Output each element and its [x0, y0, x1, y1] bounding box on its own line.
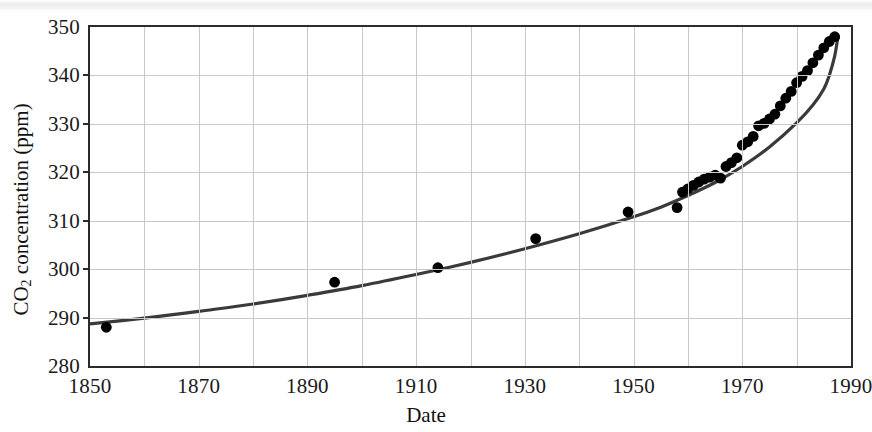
- gridline-x-1920: [471, 27, 472, 366]
- y-tick-label-290: 290: [48, 305, 80, 330]
- data-point: [829, 31, 840, 42]
- x-tick-label-1970: 1970: [721, 374, 764, 399]
- y-tick-mark-310: [83, 220, 90, 222]
- x-tick-label-1870: 1870: [177, 374, 220, 399]
- data-point: [101, 322, 112, 333]
- gridline-x-1870: [199, 27, 200, 366]
- y-tick-label-300: 300: [48, 257, 80, 282]
- y-axis-label: CO2 concentration (ppm): [9, 69, 36, 349]
- x-tick-label-1990: 1990: [830, 374, 872, 399]
- gridline-x-1910: [416, 27, 417, 366]
- y-axis-label-subscript: 2: [19, 279, 34, 286]
- data-point: [329, 277, 340, 288]
- gridline-x-1880: [253, 27, 254, 366]
- y-tick-label-340: 340: [48, 63, 80, 88]
- trend-curve: [90, 37, 838, 324]
- gridline-x-1890: [307, 27, 308, 366]
- x-tick-label-1950: 1950: [612, 374, 655, 399]
- gridline-x-1960: [688, 27, 689, 366]
- x-tick-label-1850: 1850: [69, 374, 112, 399]
- y-tick-label-330: 330: [48, 111, 80, 136]
- y-tick-mark-290: [83, 317, 90, 319]
- gridline-x-1970: [742, 27, 743, 366]
- gridline-x-1980: [797, 27, 798, 366]
- x-axis-label: Date: [406, 403, 446, 428]
- gridline-x-1860: [144, 27, 145, 366]
- y-tick-label-350: 350: [48, 15, 80, 40]
- y-tick-mark-300: [83, 268, 90, 270]
- gridline-x-1940: [579, 27, 580, 366]
- x-tick-label-1890: 1890: [286, 374, 329, 399]
- y-tick-mark-340: [83, 74, 90, 76]
- data-point: [672, 202, 683, 213]
- y-tick-mark-330: [83, 123, 90, 125]
- x-axis-label-wrap: Date: [0, 403, 872, 428]
- y-tick-mark-320: [83, 171, 90, 173]
- y-tick-label-320: 320: [48, 160, 80, 185]
- data-point: [732, 152, 743, 163]
- x-tick-label-1910: 1910: [395, 374, 438, 399]
- co2-concentration-chart: 280290300310320330340350 185018701890191…: [0, 0, 872, 432]
- data-point: [433, 262, 444, 273]
- gridline-x-1950: [634, 27, 635, 366]
- gridline-x-1930: [525, 27, 526, 366]
- x-tick-label-1930: 1930: [503, 374, 546, 399]
- y-axis-label-post: concentration (ppm): [9, 103, 33, 279]
- data-point: [715, 173, 726, 184]
- plot-area: [88, 25, 853, 368]
- data-point: [623, 207, 634, 218]
- y-axis-label-pre: CO: [9, 286, 33, 315]
- data-point: [530, 233, 541, 244]
- y-tick-label-310: 310: [48, 208, 80, 233]
- gridline-x-1900: [362, 27, 363, 366]
- data-point: [748, 131, 759, 142]
